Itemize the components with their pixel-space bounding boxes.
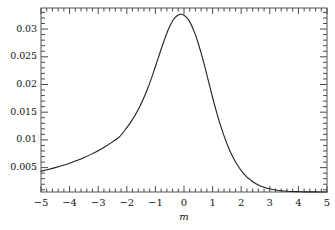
chart-container: 0.0050.010.0150.020.0250.03 −5−4−3−2−101… bbox=[0, 0, 335, 230]
x-tick-label: 5 bbox=[307, 197, 335, 208]
plot-frame-rect bbox=[41, 8, 327, 192]
y-tick-label: 0.015 bbox=[10, 106, 37, 117]
y-tick-label: 0.01 bbox=[16, 133, 37, 144]
plot-frame bbox=[41, 8, 327, 192]
y-tick-label: 0.005 bbox=[10, 161, 37, 172]
plot-svg bbox=[0, 0, 335, 230]
y-tick-label: 0.02 bbox=[16, 78, 37, 89]
y-tick-label: 0.03 bbox=[16, 23, 37, 34]
x-axis-title: m bbox=[154, 211, 214, 222]
y-tick-label: 0.025 bbox=[10, 50, 37, 61]
